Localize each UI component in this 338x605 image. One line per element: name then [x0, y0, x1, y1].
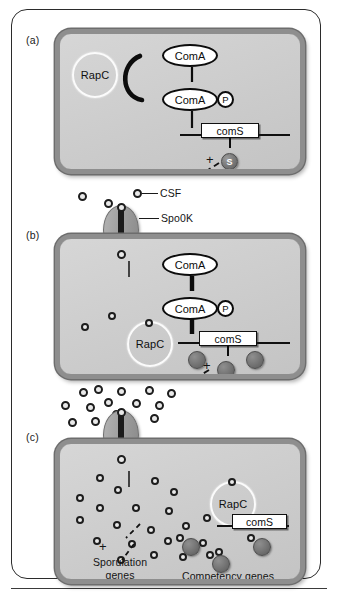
competency-genes-label-a: Competency genes: [174, 161, 266, 169]
coms-gene-c[interactable]: comS: [232, 514, 287, 529]
coma-phosphorylation-arrow-a: [186, 67, 198, 89]
csf-molecule-cytoplasm-c: [96, 504, 104, 512]
csf-molecule-extracellular-c: [86, 403, 95, 412]
coms-protein-b[interactable]: [217, 361, 235, 374]
csf-molecule-cytoplasm-c: [151, 477, 159, 485]
csf-molecule-in-pore-top-b: [117, 203, 126, 212]
csf-bound-to-coms-c: [247, 534, 255, 542]
cell-panel-c: RapC comS + Sporulation g: [55, 439, 305, 584]
csf-molecule-cytoplasm-c: [182, 522, 190, 530]
coms-translation-arrow-a: [224, 138, 236, 154]
phosphate-group-b: P: [217, 300, 234, 317]
csf-label-b: CSF: [160, 187, 181, 199]
csf-import-arrow-b: [123, 261, 135, 285]
panel-label-c: (c): [26, 431, 39, 443]
csf-molecule-extracellular-c: [91, 417, 100, 426]
figure-baseline-rule: [11, 588, 327, 589]
csf-molecule-cytoplasm-c: [132, 504, 140, 512]
csf-molecule-extracellular-c: [68, 418, 77, 427]
csf-molecule-extracellular-c: [61, 401, 70, 410]
sporulation-genes-line1: Sporulation: [76, 556, 164, 568]
coms-gene-a[interactable]: comS: [201, 123, 259, 138]
spo0k-label-b: Spo0K: [161, 212, 193, 224]
csf-molecule-in-pore-top-c: [117, 408, 126, 417]
coms-gene-b[interactable]: comS: [199, 331, 257, 346]
cell-panel-b: RapC ComA ComA P comS: [55, 234, 305, 379]
coms-activation-arrow-a: [186, 111, 198, 135]
csf-molecule-extracellular-c: [145, 386, 154, 395]
csf-molecule-extracellular-c: [94, 385, 103, 394]
csf-leader-line-b: [142, 193, 158, 194]
csf-molecule-cytoplasm-c: [147, 526, 155, 534]
csf-molecule-cytoplasm-c: [165, 507, 173, 515]
csf-molecule-extracellular-b: [78, 192, 87, 201]
panel-label-a: (a): [26, 34, 39, 46]
coms-translation-arrow-b: [222, 346, 234, 362]
csf-molecule-extracellular-c: [150, 414, 159, 423]
cytoplasm-panel-a: RapC ComA ComA P comS: [60, 34, 300, 169]
coms-protein-c[interactable]: [182, 538, 200, 556]
coms-protein-c[interactable]: [253, 538, 271, 556]
csf-molecule-cytoplasm-c: [170, 488, 178, 496]
cytoplasm-panel-b: RapC ComA ComA P comS: [60, 239, 300, 374]
figure-canvas: (a) RapC ComA ComA P: [0, 0, 338, 605]
coms-protein-b[interactable]: [246, 351, 264, 369]
csf-molecule-extracellular-b: [133, 189, 142, 198]
csf-molecule-extracellular-c: [79, 388, 88, 397]
csf-molecule-cytoplasm-c: [114, 486, 122, 494]
csf-molecule-extracellular-b: [104, 199, 113, 208]
csf-import-arrow-c: [123, 471, 135, 495]
panel-label-b: (b): [26, 229, 39, 241]
sporulation-genes-line2: genes: [76, 569, 164, 579]
coma-node-b[interactable]: ComA: [162, 253, 218, 276]
csf-molecule-cytoplasm-b: [108, 312, 116, 320]
csf-bound-to-rapc-c: [228, 478, 236, 486]
rapc-recycle-arrow-a: [114, 46, 160, 108]
coma-p-node-a[interactable]: ComA: [162, 88, 218, 111]
csf-molecule-cytoplasm-c: [76, 494, 84, 502]
csf-molecule-in-pore-bottom-c: [117, 455, 126, 464]
spo0k-leader-line-b: [139, 218, 159, 219]
sporulation-genes-label-c: Sporulation genes: [76, 556, 164, 579]
cytoplasm-panel-c: RapC comS + Sporulation g: [60, 444, 300, 579]
csf-bound-to-coms-c: [206, 551, 214, 559]
csf-bound-to-rapc-b: [145, 319, 153, 327]
csf-molecule-extracellular-c: [167, 389, 176, 398]
csf-molecule-extracellular-c: [104, 398, 113, 407]
rapc-node-a[interactable]: RapC: [72, 52, 118, 98]
coma-node-a[interactable]: ComA: [162, 44, 218, 67]
csf-molecule-extracellular-c: [155, 401, 164, 410]
csf-molecule-cytoplasm-c: [96, 474, 104, 482]
cell-panel-a: RapC ComA ComA P comS: [55, 29, 305, 174]
csf-molecule-cytoplasm-c: [76, 516, 84, 524]
csf-molecule-extracellular-c: [117, 387, 126, 396]
plus-sign-c: +: [99, 539, 107, 554]
csf-molecule-cytoplasm-c: [203, 514, 211, 522]
competency-genes-label-c: Competency genes: [182, 570, 274, 579]
csf-molecule-cytoplasm-c: [164, 537, 172, 545]
csf-bound-to-coms-c: [176, 534, 184, 542]
coms-activation-arrow-b: [184, 319, 200, 343]
csf-molecule-cytoplasm-c: [199, 539, 207, 547]
csf-molecule-extracellular-c: [132, 399, 141, 408]
csf-molecule-cytoplasm-b: [81, 323, 89, 331]
csf-molecule-in-pore-bottom-b: [117, 250, 126, 259]
phosphate-group-a: P: [217, 91, 234, 108]
competency-activation-arrow-b: [178, 369, 212, 374]
rapc-node-b[interactable]: RapC: [127, 321, 173, 367]
coma-p-node-b[interactable]: ComA: [162, 297, 218, 320]
